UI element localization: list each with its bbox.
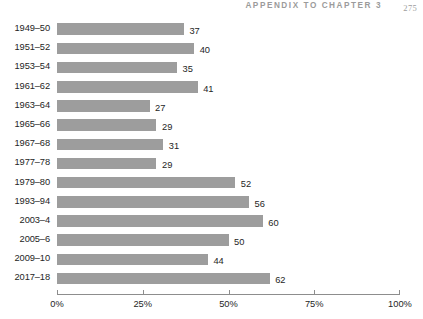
bar-value-label: 29 [162,122,172,132]
category-label: 1963–64 [0,100,50,110]
category-label: 1953–54 [0,61,50,71]
x-axis-tick-label: 50% [219,299,238,309]
x-axis-tick [57,290,58,295]
bar [57,139,163,151]
bar-value-label: 27 [155,103,165,113]
bar [57,100,150,112]
bar [57,273,270,285]
x-axis-tick-label: 25% [133,299,152,309]
chart-row: 2003–460 [0,212,423,231]
category-label: 2009–10 [0,253,50,263]
chart-row: 1977–7829 [0,154,423,173]
chart-row: 1949–5037 [0,20,423,39]
chart-row: 1961–6241 [0,78,423,97]
category-label: 1965–66 [0,119,50,129]
category-label: 1977–78 [0,157,50,167]
chart-rows: 1949–50371951–52401953–54351961–62411963… [0,20,423,289]
bar-value-label: 50 [234,237,244,247]
bar [57,62,177,74]
bar [57,254,208,266]
x-axis-tick-label: 100% [388,299,412,309]
bar-track: 35 [57,62,400,74]
bar-value-label: 44 [213,256,223,266]
category-label: 1993–94 [0,196,50,206]
category-label: 1967–68 [0,138,50,148]
bar [57,81,198,93]
bar [57,23,184,35]
bar-value-label: 31 [169,141,179,151]
bar-track: 31 [57,139,400,151]
bar [57,215,263,227]
category-label: 2005–6 [0,234,50,244]
chart-row: 1953–5435 [0,58,423,77]
chart-row: 2009–1044 [0,250,423,269]
bar-track: 62 [57,273,400,285]
chart-row: 1951–5240 [0,39,423,58]
bar [57,196,249,208]
x-axis-tick-label: 75% [305,299,324,309]
bar-value-label: 41 [203,84,213,94]
page-number: 275 [403,3,417,13]
x-axis: 0%25%50%75%100% [57,294,400,319]
x-axis-tick-label: 0% [50,299,63,309]
x-axis-tick [143,290,144,295]
chart-row: 1979–8052 [0,174,423,193]
running-head-title: APPENDIX TO CHAPTER 3 [245,1,382,10]
bar-value-label: 56 [255,199,265,209]
chart-row: 1965–6629 [0,116,423,135]
bar-track: 44 [57,254,400,266]
category-label: 1951–52 [0,42,50,52]
chart-row: 2017–1862 [0,269,423,288]
chart-row: 1993–9456 [0,193,423,212]
bar [57,177,235,189]
bar-value-label: 62 [275,275,285,285]
bar-track: 50 [57,234,400,246]
bar-track: 29 [57,158,400,170]
bar-track: 37 [57,23,400,35]
bar-value-label: 35 [183,64,193,74]
chart-row: 2005–650 [0,231,423,250]
bar [57,234,229,246]
bar [57,119,156,131]
horizontal-bar-chart: 1949–50371951–52401953–54351961–62411963… [0,20,423,319]
bar [57,43,194,55]
bar-track: 27 [57,100,400,112]
bar-value-label: 60 [268,218,278,228]
chart-row: 1967–6831 [0,135,423,154]
bar-track: 52 [57,177,400,189]
bar-value-label: 29 [162,160,172,170]
category-label: 1949–50 [0,23,50,33]
category-label: 1979–80 [0,177,50,187]
x-axis-tick [399,290,400,295]
category-label: 2017–18 [0,272,50,282]
category-label: 1961–62 [0,81,50,91]
bar-value-label: 40 [200,45,210,55]
bar-track: 60 [57,215,400,227]
x-axis-tick [314,290,315,295]
bar-track: 29 [57,119,400,131]
bar-track: 40 [57,43,400,55]
chart-row: 1963–6427 [0,97,423,116]
bar-track: 56 [57,196,400,208]
bar [57,158,156,170]
bar-value-label: 52 [241,179,251,189]
bar-value-label: 37 [189,26,199,36]
x-axis-tick [229,290,230,295]
bar-track: 41 [57,81,400,93]
running-head: APPENDIX TO CHAPTER 3 275 [0,0,423,16]
category-label: 2003–4 [0,215,50,225]
